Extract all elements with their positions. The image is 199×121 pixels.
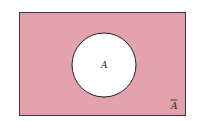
venn-diagram: A A <box>0 0 199 121</box>
complement-label: A <box>170 101 178 111</box>
set-a-label: A <box>100 60 108 70</box>
